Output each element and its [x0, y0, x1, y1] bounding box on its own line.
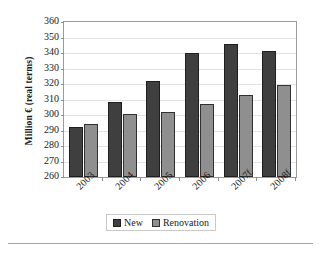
bar-renovation-2008f: [277, 85, 291, 177]
y-tick-mark: [61, 131, 64, 132]
y-tick-label: 260: [19, 171, 59, 181]
bar-new-2003: [69, 127, 83, 177]
y-tick-label: 350: [19, 32, 59, 42]
chart-legend: New Renovation: [106, 214, 216, 231]
x-tick-mark: [295, 177, 296, 181]
plot-area: [63, 21, 297, 178]
bar-new-2006: [185, 53, 199, 177]
bar-renovation-2006: [200, 104, 214, 177]
x-tick-mark: [218, 177, 219, 181]
legend-entry-renovation: Renovation: [152, 217, 209, 228]
y-tick-mark: [61, 162, 64, 163]
y-tick-mark: [61, 69, 64, 70]
bar-renovation-2007f: [239, 95, 253, 177]
bar-new-2008f: [262, 51, 276, 177]
y-tick-label: 280: [19, 140, 59, 150]
x-tick-mark: [102, 177, 103, 181]
bar-renovation-2004: [123, 114, 137, 177]
y-tick-label: 300: [19, 109, 59, 119]
y-tick-mark: [61, 100, 64, 101]
legend-swatch-renovation-icon: [152, 219, 160, 227]
legend-label-new: New: [124, 217, 143, 228]
y-tick-mark: [61, 84, 64, 85]
x-tick-mark: [179, 177, 180, 181]
y-tick-mark: [61, 53, 64, 54]
legend-swatch-new-icon: [113, 219, 121, 227]
y-tick-mark: [61, 38, 64, 39]
bar-new-2004: [108, 102, 122, 177]
chart-figure: Million € (real terms) 26027028029030031…: [0, 0, 321, 254]
legend-entry-new: New: [113, 217, 143, 228]
y-tick-label: 320: [19, 78, 59, 88]
bar-new-2005: [146, 81, 160, 177]
y-tick-mark: [61, 146, 64, 147]
bar-new-2007f: [224, 44, 238, 177]
y-tick-label: 290: [19, 125, 59, 135]
y-tick-label: 360: [19, 16, 59, 26]
bottom-divider: [8, 243, 313, 244]
y-tick-label: 310: [19, 94, 59, 104]
gridline: [64, 38, 296, 39]
y-tick-mark: [61, 177, 64, 178]
x-tick-mark: [256, 177, 257, 181]
legend-label-renovation: Renovation: [163, 217, 209, 228]
y-tick-label: 340: [19, 47, 59, 57]
y-tick-label: 270: [19, 156, 59, 166]
y-tick-label: 330: [19, 63, 59, 73]
bar-renovation-2003: [84, 124, 98, 177]
x-tick-mark: [140, 177, 141, 181]
y-tick-mark: [61, 22, 64, 23]
y-tick-mark: [61, 115, 64, 116]
bar-renovation-2005: [161, 112, 175, 177]
